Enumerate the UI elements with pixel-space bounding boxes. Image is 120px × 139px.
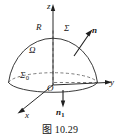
surface-sigma-label: Σ (64, 24, 69, 33)
origin-label: O (47, 84, 54, 93)
base-surface-subscript: 0 (25, 74, 29, 81)
figure-container: z R Σ n Ω Σ0 O y x n1 图 10.29 (0, 0, 120, 139)
y-axis-label: y (110, 78, 114, 87)
base-normal-label: n1 (56, 108, 65, 119)
figure-caption: 图 10.29 (0, 121, 120, 136)
base-surface-label: Σ0 (20, 71, 29, 82)
z-axis-label: z (47, 2, 51, 11)
z-axis-arrowhead (51, 4, 55, 11)
outer-normal-label: n (92, 26, 97, 35)
base-normal-arrowhead (61, 101, 65, 108)
base-normal-subscript: 1 (61, 111, 65, 118)
x-axis-label: x (25, 111, 29, 120)
radius-label: R (36, 23, 42, 32)
outer-normal-vector-line (74, 34, 90, 57)
region-omega-label: Ω (29, 46, 36, 55)
